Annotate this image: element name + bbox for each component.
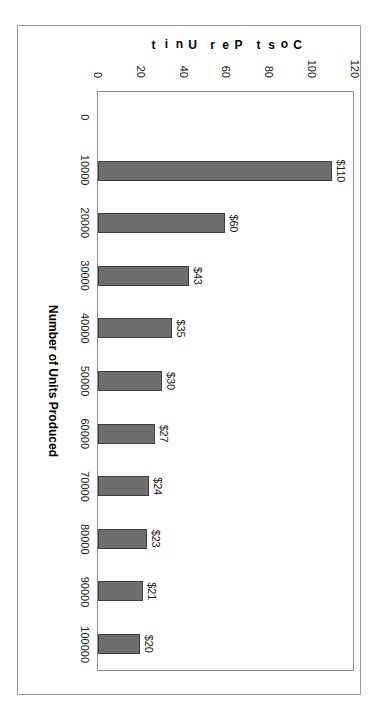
bar[interactable]: $35 bbox=[98, 318, 172, 338]
bar[interactable]: $24 bbox=[98, 476, 149, 496]
bar[interactable]: $30 bbox=[98, 371, 162, 391]
category-axis-tick: 60000 bbox=[61, 407, 95, 460]
value-axis-tick: 40 bbox=[177, 66, 188, 78]
bar-value-label: $27 bbox=[158, 425, 169, 443]
value-axis-tick: 80 bbox=[263, 66, 274, 78]
value-axis-tick: 0 bbox=[92, 72, 103, 78]
category-axis-title: Number of Units Produced bbox=[46, 91, 60, 671]
rotated-chart-stage: Cost Per Unit 020406080100120 $110$60$43… bbox=[0, 0, 371, 713]
bar-slot: $23 bbox=[98, 512, 353, 565]
bar[interactable]: $20 bbox=[98, 634, 141, 654]
bar-slot: $43 bbox=[98, 250, 353, 303]
bar-wrapper: $20 bbox=[98, 634, 141, 654]
bar-wrapper: $24 bbox=[98, 476, 149, 496]
bar[interactable]: $43 bbox=[98, 266, 189, 286]
category-axis: 0100002000030000400005000060000700008000… bbox=[61, 91, 95, 671]
bar[interactable]: $27 bbox=[98, 424, 155, 444]
category-axis-tick: 20000 bbox=[61, 196, 95, 249]
bar-value-label: $35 bbox=[175, 320, 186, 338]
bar-slot: $24 bbox=[98, 460, 353, 513]
category-axis-tick: 30000 bbox=[61, 249, 95, 302]
category-axis-tick: 10000 bbox=[61, 144, 95, 197]
category-axis-tick: 0 bbox=[61, 91, 95, 144]
bar[interactable]: $21 bbox=[98, 581, 143, 601]
value-axis-tick: 20 bbox=[134, 66, 145, 78]
bar-value-label: $110 bbox=[335, 159, 346, 182]
bar-slot: $30 bbox=[98, 355, 353, 408]
bar-wrapper: $30 bbox=[98, 371, 162, 391]
category-axis-tick: 90000 bbox=[61, 566, 95, 619]
bar-wrapper: $43 bbox=[98, 266, 189, 286]
value-axis-tick: 120 bbox=[349, 60, 360, 78]
value-axis-tick: 60 bbox=[220, 66, 231, 78]
bar-value-label: $23 bbox=[150, 530, 161, 548]
bar-wrapper: $60 bbox=[98, 213, 226, 233]
bar-slot: $21 bbox=[98, 565, 353, 618]
bar-slot: $35 bbox=[98, 302, 353, 355]
category-axis-tick: 40000 bbox=[61, 302, 95, 355]
category-axis-tick: 70000 bbox=[61, 460, 95, 513]
bar-slot: $20 bbox=[98, 617, 353, 670]
bar-slot: $27 bbox=[98, 407, 353, 460]
bar-slot: $60 bbox=[98, 197, 353, 250]
bar[interactable]: $23 bbox=[98, 529, 147, 549]
chart-page: Cost Per Unit 020406080100120 $110$60$43… bbox=[0, 0, 371, 713]
bar-slot bbox=[98, 92, 353, 145]
bar-series: $110$60$43$35$30$27$24$23$21$20 bbox=[98, 92, 353, 670]
category-axis-tick: 80000 bbox=[61, 513, 95, 566]
bar-value-label: $21 bbox=[146, 582, 157, 600]
bar[interactable]: $110 bbox=[98, 161, 332, 181]
bar-value-label: $20 bbox=[144, 635, 155, 653]
category-axis-tick: 100000 bbox=[61, 618, 95, 671]
bar-value-label: $60 bbox=[229, 214, 240, 232]
bar-slot: $110 bbox=[98, 145, 353, 198]
bar-value-label: $24 bbox=[152, 477, 163, 495]
bar-wrapper: $21 bbox=[98, 581, 143, 601]
bar-wrapper: $110 bbox=[98, 161, 332, 181]
bar-value-label: $30 bbox=[165, 372, 176, 390]
category-axis-tick: 50000 bbox=[61, 355, 95, 408]
bar-wrapper: $35 bbox=[98, 318, 172, 338]
chart-frame: Cost Per Unit 020406080100120 $110$60$43… bbox=[17, 25, 361, 695]
bar[interactable]: $60 bbox=[98, 213, 226, 233]
bar-wrapper: $23 bbox=[98, 529, 147, 549]
bar-wrapper: $27 bbox=[98, 424, 155, 444]
bar-value-label: $43 bbox=[192, 267, 203, 285]
plot-area: $110$60$43$35$30$27$24$23$21$20 bbox=[97, 91, 354, 671]
value-axis-tick: 100 bbox=[306, 60, 317, 78]
value-axis: 020406080100120 bbox=[97, 26, 354, 86]
